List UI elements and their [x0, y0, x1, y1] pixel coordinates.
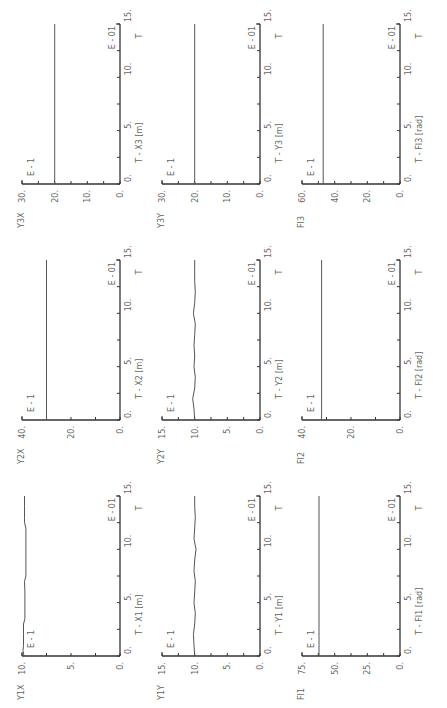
chart-panel: 0.10.20.30.0.5.10.15.E - 01TT - Y3 [m]E …	[140, 0, 289, 236]
x-axis-label: T	[415, 269, 424, 275]
chart-panel: 0.20.40.0.5.10.15.E - 01TT - X2 [m]E - 1…	[0, 236, 149, 472]
x-tick-label: 15.	[264, 9, 273, 22]
y-tick-label: 25.	[363, 662, 372, 675]
y-tick-label: 40.	[298, 426, 307, 439]
y-tick-label: 20.	[347, 426, 356, 439]
x-tick-label: 10.	[124, 63, 133, 76]
x-tick-label: 0.	[264, 174, 273, 182]
x-tick-label: 0.	[264, 646, 273, 654]
x-tick-label: 0.	[124, 410, 133, 418]
x-tick-label: 5.	[404, 121, 413, 129]
y-tick-label: 0.	[396, 426, 405, 434]
x-tick-label: 10.	[404, 63, 413, 76]
x-tick-label: 5.	[404, 357, 413, 365]
y-tick-label: 40.	[331, 190, 340, 203]
y-exponent: E - 1	[167, 158, 176, 176]
x-tick-label: 15.	[124, 481, 133, 494]
chart-panel: 0.20.40.0.5.10.15.E - 01TT - FI2 [rad]E …	[280, 236, 429, 472]
chart-svg: 0.5.10.15.0.5.10.15.E - 01TT - Y1 [m]E -…	[140, 472, 289, 708]
chart-svg: 0.20.40.0.5.10.15.E - 01TT - FI2 [rad]E …	[280, 236, 429, 472]
y-tick-label: 30.	[18, 190, 27, 203]
x-tick-label: 15.	[404, 9, 413, 22]
y-tick-label: 10.	[223, 190, 232, 203]
y-tick-label: 50.	[331, 662, 340, 675]
y-tick-label: 0.	[256, 426, 265, 434]
x-exponent: E - 01	[108, 498, 117, 521]
x-tick-label: 15.	[404, 245, 413, 258]
chart-title: T - FI2 [rad]	[415, 352, 424, 400]
chart-svg: 0.20.40.60.0.5.10.15.E - 01TT - FI3 [rad…	[280, 0, 429, 236]
y-tick-label: 0.	[256, 662, 265, 670]
x-tick-label: 15.	[264, 245, 273, 258]
y-tick-label: 10.	[18, 662, 27, 675]
y-tick-label: 0.	[116, 426, 125, 434]
x-tick-label: 10.	[264, 299, 273, 312]
y-variable-label: Y2X	[17, 448, 26, 465]
y-tick-label: 30.	[158, 190, 167, 203]
y-tick-label: 15.	[158, 662, 167, 675]
x-tick-label: 10.	[124, 299, 133, 312]
y-tick-label: 5.	[223, 662, 232, 670]
chart-panel: 0.5.10.15.0.5.10.15.E - 01TT - Y2 [m]E -…	[140, 236, 289, 472]
y-tick-label: 0.	[256, 190, 265, 198]
y-tick-label: 0.	[116, 190, 125, 198]
x-tick-label: 15.	[124, 9, 133, 22]
y-tick-label: 0.	[396, 190, 405, 198]
y-variable-label: Y3X	[17, 212, 26, 229]
x-exponent: E - 01	[108, 26, 117, 49]
x-tick-label: 0.	[124, 646, 133, 654]
chart-panel: 0.20.40.60.0.5.10.15.E - 01TT - FI3 [rad…	[280, 0, 429, 236]
x-tick-label: 5.	[404, 593, 413, 601]
chart-svg: 0.10.20.30.0.5.10.15.E - 01TT - Y3 [m]E …	[140, 0, 289, 236]
y-exponent: E - 1	[167, 394, 176, 412]
y-exponent: E - 1	[27, 630, 36, 648]
x-tick-label: 10.	[264, 63, 273, 76]
chart-svg: 0.10.20.30.0.5.10.15.E - 01TT - X3 [m]E …	[0, 0, 149, 236]
x-exponent: E - 01	[248, 262, 257, 285]
x-tick-label: 5.	[124, 357, 133, 365]
data-line	[193, 496, 196, 656]
y-tick-label: 40.	[18, 426, 27, 439]
chart-svg: 0.25.50.75.0.5.10.15.E - 01TT - FI1 [rad…	[280, 472, 429, 708]
chart-panel: 0.25.50.75.0.5.10.15.E - 01TT - FI1 [rad…	[280, 472, 429, 708]
x-tick-label: 5.	[124, 121, 133, 129]
x-tick-label: 0.	[404, 410, 413, 418]
y-tick-label: 10.	[191, 426, 200, 439]
x-axis-label: T	[415, 505, 424, 511]
y-tick-label: 0.	[116, 662, 125, 670]
x-tick-label: 15.	[264, 481, 273, 494]
y-tick-label: 10.	[191, 662, 200, 675]
y-tick-label: 20.	[191, 190, 200, 203]
x-tick-label: 0.	[124, 174, 133, 182]
y-variable-label: Y1X	[17, 684, 26, 701]
x-exponent: E - 01	[248, 26, 257, 49]
y-variable-label: FI3	[297, 216, 306, 228]
x-exponent: E - 01	[248, 498, 257, 521]
y-variable-label: Y1Y	[157, 685, 166, 701]
y-tick-label: 20.	[51, 190, 60, 203]
x-tick-label: 15.	[124, 245, 133, 258]
data-line	[23, 496, 26, 656]
data-line	[193, 260, 196, 420]
y-tick-label: 20.	[67, 426, 76, 439]
x-tick-label: 0.	[404, 174, 413, 182]
y-tick-label: 5.	[67, 662, 76, 670]
chart-title: T - FI1 [rad]	[415, 588, 424, 636]
y-tick-label: 20.	[363, 190, 372, 203]
x-tick-label: 5.	[264, 357, 273, 365]
y-tick-label: 75.	[298, 662, 307, 675]
y-tick-label: 0.	[396, 662, 405, 670]
y-tick-label: 60.	[298, 190, 307, 203]
x-tick-label: 15.	[404, 481, 413, 494]
chart-svg: 0.5.10.0.5.10.15.E - 01TT - X1 [m]E - 1Y…	[0, 472, 149, 708]
x-tick-label: 10.	[264, 535, 273, 548]
y-variable-label: Y2Y	[157, 449, 166, 465]
x-tick-label: 10.	[124, 535, 133, 548]
y-exponent: E - 1	[27, 158, 36, 176]
y-tick-label: 10.	[83, 190, 92, 203]
x-tick-label: 10.	[404, 535, 413, 548]
x-tick-label: 5.	[124, 593, 133, 601]
y-tick-label: 15.	[158, 426, 167, 439]
x-exponent: E - 01	[388, 498, 397, 521]
x-axis-label: T	[415, 33, 424, 39]
